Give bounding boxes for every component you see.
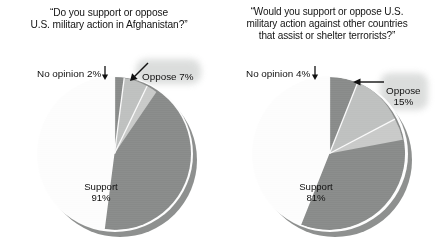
slice-label-support-afghanistan: Support 91% — [58, 181, 144, 204]
callout-no-opinion-afghanistan: No opinion 2% — [37, 57, 101, 79]
callout-oppose-text: Oppose 7% — [142, 71, 194, 82]
pie-chart-afghanistan — [36, 76, 200, 236]
callout-oppose-text: Oppose 15% — [386, 85, 421, 107]
callout-oppose-afghanistan: Oppose 7% — [142, 60, 194, 82]
callout-no-opinion-text: No opinion 2% — [37, 68, 101, 79]
callout-no-opinion-text: No opinion 4% — [246, 68, 310, 79]
pie-slices — [38, 77, 191, 230]
callout-oppose-other-countries: Oppose 15% — [386, 74, 421, 108]
chart-title-afghanistan: “Do you support or oppose U.S. military … — [0, 7, 218, 32]
chart-title-other-countries: “Would you support or oppose U.S. milita… — [218, 6, 436, 43]
slice-label-support-other-countries: Support 81% — [273, 181, 359, 204]
chart-panel-afghanistan: “Do you support or oppose U.S. military … — [0, 0, 218, 247]
callout-no-opinion-other-countries: No opinion 4% — [246, 57, 310, 79]
pie-slices — [253, 77, 406, 230]
pie-chart-figure: “Do you support or oppose U.S. military … — [0, 0, 436, 247]
